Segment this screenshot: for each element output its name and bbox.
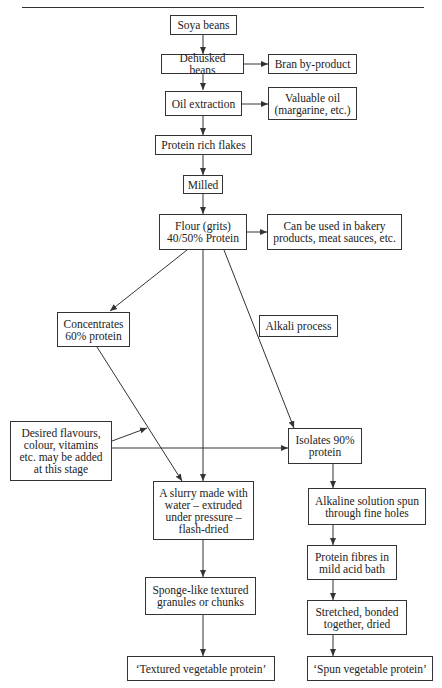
node-dehusked-beans: Dehusked beans <box>161 54 244 74</box>
node-isolates: Isolates 90% protein <box>288 428 362 464</box>
node-alkaline-solution: Alkaline solution spun through fine hole… <box>308 488 426 525</box>
node-concentrates: Concentrates 60% protein <box>57 312 130 347</box>
node-bakery-uses: Can be used in bakery products, meat sau… <box>267 214 402 250</box>
edge-flour-concentrates <box>110 250 187 311</box>
node-valuable-oil: Valuable oil (margarine, etc.) <box>268 87 357 120</box>
node-spun-vegetable-protein: ‘Spun vegetable protein’ <box>307 656 433 681</box>
node-oil-extraction: Oil extraction <box>165 91 242 116</box>
edge-flour-isolates <box>224 250 294 428</box>
node-sponge-like: Sponge-like textured granules or chunks <box>145 577 256 615</box>
node-milled: Milled <box>183 175 223 194</box>
node-protein-rich-flakes: Protein rich flakes <box>155 135 252 155</box>
node-stretched-bonded: Stretched, bonded together, dried <box>307 600 407 635</box>
node-soya-beans: Soya beans <box>170 15 237 35</box>
node-alkali-process: Alkali process <box>259 315 338 337</box>
node-bran-by-product: Bran by-product <box>268 54 357 74</box>
node-protein-fibres: Protein fibres in mild acid bath <box>307 545 397 580</box>
edge-flavours-merge <box>112 428 147 441</box>
node-textured-vegetable-protein: ‘Textured vegetable protein’ <box>127 656 275 681</box>
node-desired-flavours: Desired flavours, colour, vitamins etc. … <box>10 421 112 481</box>
node-flour-grits: Flour (grits) 40/50% Protein <box>159 214 247 250</box>
node-slurry: A slurry made with water – extruded unde… <box>153 481 254 540</box>
